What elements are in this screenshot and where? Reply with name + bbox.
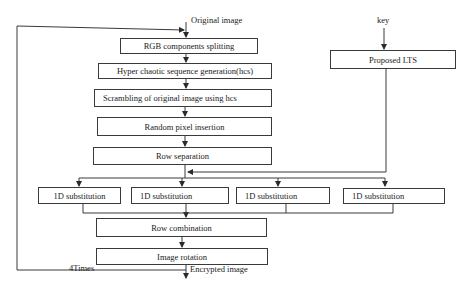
substitution-box-4: 1D substitution [343, 188, 445, 204]
rgb-splitting-label: RGB components splitting [144, 41, 235, 51]
row-combination-label: Row combination [151, 223, 212, 233]
random-pixel-insertion-label: Random pixel insertion [145, 122, 225, 132]
hcs-generation-box: Hyper chaotic sequence generation(hcs) [98, 63, 272, 79]
substitution-label: 1D substitution [140, 191, 192, 201]
loop-count-label: 4Times [69, 263, 94, 273]
substitution-label: 1D substitution [245, 191, 297, 201]
image-rotation-box: Image rotation [96, 248, 268, 265]
substitution-label: 1D substitution [53, 191, 105, 201]
hcs-generation-label: Hyper chaotic sequence generation(hcs) [117, 66, 253, 76]
proposed-lts-label: Proposed LTS [369, 55, 417, 65]
encrypted-image-label: Encrypted image [190, 264, 248, 274]
row-separation-box: Row separation [93, 147, 272, 165]
scrambling-box: Scrambling of original image using hcs [94, 89, 272, 107]
image-rotation-label: Image rotation [157, 252, 207, 262]
proposed-lts-box: Proposed LTS [330, 50, 456, 69]
substitution-box-1: 1D substitution [38, 187, 121, 204]
rgb-splitting-box: RGB components splitting [120, 38, 258, 54]
random-pixel-insertion-box: Random pixel insertion [97, 117, 272, 136]
key-label: key [377, 15, 389, 25]
original-image-label: Original image [191, 15, 242, 25]
row-separation-label: Row separation [156, 151, 209, 161]
substitution-box-2: 1D substitution [131, 187, 229, 204]
substitution-label: 1D substitution [352, 191, 404, 201]
substitution-box-3: 1D substitution [236, 187, 330, 204]
scrambling-label: Scrambling of original image using hcs [103, 93, 237, 103]
row-combination-box: Row combination [96, 218, 267, 237]
flowchart-canvas: Original image key RGB components splitt… [0, 0, 470, 286]
